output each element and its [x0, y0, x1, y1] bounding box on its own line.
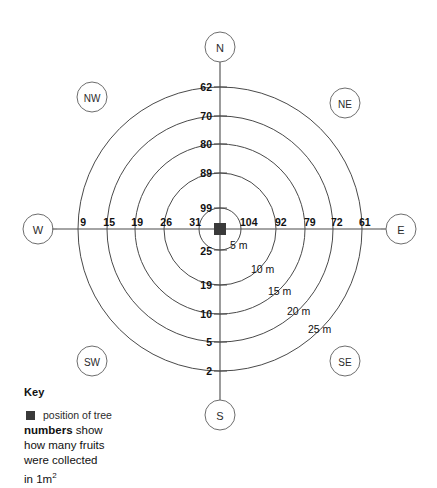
- count-south-15m: 10: [200, 308, 212, 320]
- compass-label-n: N: [216, 42, 224, 54]
- count-north-25m: 62: [200, 81, 212, 93]
- count-west-20m: 15: [103, 216, 115, 228]
- count-east-20m: 72: [331, 216, 343, 228]
- count-north-15m: 80: [200, 138, 212, 150]
- count-east-10m: 92: [275, 216, 287, 228]
- count-west-10m: 26: [160, 216, 172, 228]
- distance-label-10m: 10 m: [251, 263, 275, 275]
- polar-fruit-diagram: N NE E SE S SW W NW 99 89 80 70 62 25 19…: [0, 0, 437, 488]
- count-south-10m: 19: [200, 279, 212, 291]
- compass-label-e: E: [397, 224, 404, 236]
- count-south-25m: 2: [206, 365, 212, 377]
- count-north-20m: 70: [200, 110, 212, 122]
- count-east-15m: 79: [304, 216, 316, 228]
- key-note-line-3: were collected: [24, 453, 204, 468]
- key-title: Key: [24, 386, 204, 398]
- key-note: numbers show how many fruits were collec…: [24, 423, 204, 487]
- distance-label-5m: 5 m: [230, 239, 248, 251]
- key-note-line-1: numbers show: [24, 423, 204, 438]
- distance-label-15m: 15 m: [268, 285, 292, 297]
- key-note-line-4: in 1m2: [24, 468, 204, 487]
- compass-label-sw: SW: [84, 357, 101, 368]
- compass-label-ne: NE: [338, 99, 352, 110]
- count-north-5m: 99: [200, 202, 212, 214]
- key-note-line-4-prefix: in 1m: [24, 473, 52, 485]
- key-legend: Key position of tree numbers show how ma…: [24, 386, 204, 487]
- count-east-25m: 61: [359, 216, 371, 228]
- distance-label-25m: 25 m: [308, 323, 332, 335]
- count-west-5m: 31: [189, 216, 201, 228]
- key-note-bold: numbers: [24, 424, 73, 436]
- count-north-10m: 89: [200, 167, 212, 179]
- count-south-20m: 5: [206, 336, 212, 348]
- compass-label-se: SE: [338, 357, 352, 368]
- key-note-line-1-rest: show: [73, 424, 103, 436]
- key-swatch-row: position of tree: [24, 409, 204, 421]
- key-note-line-4-sup: 2: [52, 471, 56, 480]
- key-note-line-2: how many fruits: [24, 438, 204, 453]
- key-swatch-label: position of tree: [43, 409, 112, 421]
- count-south-5m: 25: [200, 245, 212, 257]
- distance-label-20m: 20 m: [287, 305, 311, 317]
- count-east-5m: 104: [240, 216, 258, 228]
- count-west-15m: 19: [131, 216, 143, 228]
- tree-marker-swatch-icon: [26, 411, 35, 420]
- compass-label-nw: NW: [84, 93, 101, 104]
- compass-label-s: S: [216, 410, 223, 422]
- tree-position-marker: [214, 223, 226, 235]
- count-west-25m: 9: [80, 216, 86, 228]
- compass-label-w: W: [33, 224, 44, 236]
